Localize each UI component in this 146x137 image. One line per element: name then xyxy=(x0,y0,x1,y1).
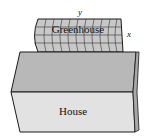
dimension-x-label: x xyxy=(126,29,131,39)
house: House xyxy=(11,52,139,132)
house-label: House xyxy=(59,105,87,117)
greenhouse: Greenhouse xyxy=(34,19,123,52)
dimension-y-label: y xyxy=(77,7,82,17)
house-greenhouse-diagram: Greenhouse y x House xyxy=(0,0,146,137)
house-top-face xyxy=(11,52,136,92)
greenhouse-label: Greenhouse xyxy=(52,23,105,35)
